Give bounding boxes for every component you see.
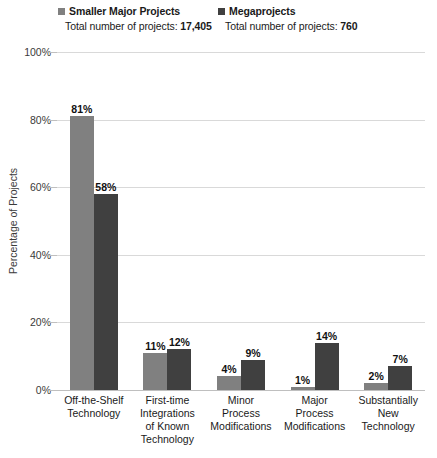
- bar-value-label: 14%: [316, 330, 337, 342]
- x-axis-category-line: Process: [205, 407, 277, 420]
- y-axis-tick-label: 60%: [30, 181, 51, 193]
- bar[interactable]: [315, 343, 339, 390]
- bar-holder: 7%: [388, 366, 412, 390]
- bar-value-label: 58%: [95, 181, 116, 193]
- bar[interactable]: [94, 194, 118, 390]
- x-axis-category-label: MinorProcessModifications: [204, 394, 278, 446]
- gridline: [57, 390, 425, 391]
- bar-holder: 58%: [94, 194, 118, 390]
- bar-group-bars: 4%9%: [204, 52, 278, 390]
- x-axis-category-line: New: [352, 407, 424, 420]
- legend-entry-megaprojects: Megaprojects Total number of projects: 7…: [218, 4, 358, 32]
- bar-column: 1%: [291, 52, 315, 390]
- x-axis-category-line: of Known: [132, 420, 204, 433]
- bar-chart: Percentage of Projects 100%80%60%40%20%0…: [0, 40, 437, 458]
- x-axis-category-label: Off-the-ShelfTechnology: [57, 394, 131, 446]
- x-axis-category-line: Off-the-Shelf: [58, 394, 130, 407]
- bar-group: 4%9%: [204, 52, 278, 390]
- y-axis-tick-label: 0%: [36, 384, 51, 396]
- x-axis-category-label: First-timeIntegrationsof KnownTechnology: [131, 394, 205, 446]
- y-axis-tick-mark: [50, 52, 57, 53]
- bar-group-bars: 11%12%: [131, 52, 205, 390]
- bar-holder: 12%: [167, 349, 191, 390]
- chart-legend: Smaller Major Projects Total number of p…: [0, 0, 437, 40]
- y-axis-tick-mark: [50, 390, 57, 391]
- x-axis-labels: Off-the-ShelfTechnologyFirst-timeIntegra…: [57, 394, 425, 446]
- bar-value-label: 7%: [393, 353, 408, 365]
- x-axis-category-line: Technology: [58, 407, 130, 420]
- bar-group: 81%58%: [57, 52, 131, 390]
- y-axis-tick-mark: [50, 187, 57, 188]
- bar-holder: 2%: [364, 383, 388, 390]
- x-axis-category-line: Minor: [205, 394, 277, 407]
- y-axis-tick-mark: [50, 120, 57, 121]
- x-axis-category-label: SubstantiallyNewTechnology: [351, 394, 425, 446]
- bar-holder: 14%: [315, 343, 339, 390]
- bar-column: 11%: [143, 52, 167, 390]
- bar-column: 81%: [70, 52, 94, 390]
- x-axis-category-line: Technology: [132, 433, 204, 446]
- bar[interactable]: [241, 360, 265, 390]
- bar-value-label: 81%: [71, 103, 92, 115]
- bar-value-label: 1%: [295, 374, 310, 386]
- bar-column: 7%: [388, 52, 412, 390]
- bar-group: 1%14%: [278, 52, 352, 390]
- bar[interactable]: [388, 366, 412, 390]
- legend-entry-smaller-major-projects: Smaller Major Projects Total number of p…: [58, 4, 212, 32]
- bar-holder: 11%: [143, 353, 167, 390]
- bar[interactable]: [143, 353, 167, 390]
- bar-value-label: 12%: [169, 336, 190, 348]
- plot-area: 100%80%60%40%20%0% 81%58%11%12%4%9%1%14%…: [57, 52, 425, 390]
- legend-total-prefix-smaller: Total number of projects:: [65, 20, 180, 32]
- bar-holder: 4%: [217, 376, 241, 390]
- bar-value-label: 9%: [245, 347, 260, 359]
- x-axis-category-line: Substantially: [352, 394, 424, 407]
- x-axis-category-line: Process: [279, 407, 351, 420]
- bar-holder: 81%: [70, 116, 94, 390]
- y-axis-tick-label: 20%: [30, 316, 51, 328]
- y-axis-tick-label: 100%: [24, 46, 51, 58]
- bar[interactable]: [291, 387, 315, 390]
- x-axis-category-line: First-time: [132, 394, 204, 407]
- y-axis-tick-mark: [50, 255, 57, 256]
- bar[interactable]: [217, 376, 241, 390]
- legend-label-megaprojects: Megaprojects: [229, 5, 296, 17]
- y-axis-tick-label: 40%: [30, 249, 51, 261]
- bar-column: 4%: [217, 52, 241, 390]
- legend-total-value-mega: 760: [340, 20, 357, 32]
- bar-group-bars: 2%7%: [351, 52, 425, 390]
- bar-value-label: 2%: [369, 370, 384, 382]
- bar-column: 14%: [315, 52, 339, 390]
- bar-group-bars: 1%14%: [278, 52, 352, 390]
- legend-title-row: Smaller Major Projects: [58, 4, 212, 18]
- legend-title-row: Megaprojects: [218, 4, 358, 18]
- legend-total-megaprojects: Total number of projects: 760: [225, 20, 358, 32]
- legend-label-smaller-major-projects: Smaller Major Projects: [69, 5, 180, 17]
- legend-swatch-icon-smaller-major-projects: [58, 8, 65, 15]
- bar-group-bars: 81%58%: [57, 52, 131, 390]
- bar[interactable]: [364, 383, 388, 390]
- legend-total-value-smaller: 17,405: [180, 20, 212, 32]
- x-axis-category-line: Major: [279, 394, 351, 407]
- legend-swatch-icon-megaprojects: [218, 8, 225, 15]
- bar-group: 2%7%: [351, 52, 425, 390]
- y-axis-title-text: Percentage of Projects: [7, 168, 19, 274]
- bar-group: 11%12%: [131, 52, 205, 390]
- x-axis-category-label: MajorProcessModifications: [278, 394, 352, 446]
- x-axis-category-line: Modifications: [279, 420, 351, 433]
- bar[interactable]: [167, 349, 191, 390]
- bar-value-label: 11%: [145, 340, 165, 352]
- bar-holder: 9%: [241, 360, 265, 390]
- legend-total-prefix-mega: Total number of projects:: [225, 20, 340, 32]
- bar-holder: 1%: [291, 387, 315, 390]
- bar-column: 58%: [94, 52, 118, 390]
- x-axis-category-line: Technology: [352, 420, 424, 433]
- y-axis-tick-mark: [50, 322, 57, 323]
- bar-column: 2%: [364, 52, 388, 390]
- y-axis-title: Percentage of Projects: [6, 52, 20, 390]
- bar[interactable]: [70, 116, 94, 390]
- y-axis-tick-label: 80%: [30, 114, 51, 126]
- bar-column: 12%: [167, 52, 191, 390]
- bar-column: 9%: [241, 52, 265, 390]
- bar-groups: 81%58%11%12%4%9%1%14%2%7%: [57, 52, 425, 390]
